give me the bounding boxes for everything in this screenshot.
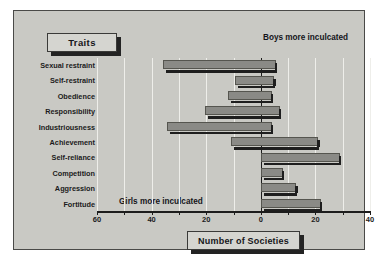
bar[interactable]: [261, 199, 321, 208]
x-axis-tick-label: 40: [358, 215, 380, 224]
category-label: Fortitude: [32, 197, 95, 212]
category-label: Aggression: [32, 181, 95, 196]
bar[interactable]: [261, 183, 296, 192]
axis-title-label: Number of Societies: [198, 236, 289, 246]
gridline: [370, 58, 371, 212]
x-axis-tick-label: 0: [249, 215, 273, 224]
bar-row: [97, 89, 370, 104]
traits-box-label: Traits: [68, 37, 96, 48]
category-label: Self-reliance: [32, 150, 95, 165]
bar[interactable]: [235, 76, 275, 85]
category-label: Industriousness: [32, 120, 95, 135]
x-axis-tick-label: 20: [303, 215, 327, 224]
traits-legend-box: Traits: [47, 33, 117, 52]
category-label: Responsibility: [32, 104, 95, 119]
bar-row: [97, 150, 370, 165]
category-label: Self-restraint: [32, 73, 95, 88]
category-label: Sexual restraint: [32, 58, 95, 73]
bar-row: [97, 181, 370, 196]
x-axis-tick: [288, 211, 289, 215]
bar-row: [97, 166, 370, 181]
bar-row: [97, 120, 370, 135]
x-axis-tick: [124, 211, 125, 215]
bar[interactable]: [261, 153, 340, 162]
x-axis-tick: [234, 211, 235, 215]
bar[interactable]: [167, 122, 272, 131]
x-axis-tick-label: 20: [194, 215, 218, 224]
chart-frame: Traits Boys more inculcated Girls more i…: [13, 10, 365, 250]
bar[interactable]: [163, 60, 276, 69]
category-label: Achievement: [32, 135, 95, 150]
bar[interactable]: [231, 137, 318, 146]
bar-row: [97, 197, 370, 212]
annotation-boys-more-inculcated: Boys more inculcated: [263, 33, 348, 42]
bar-row: [97, 73, 370, 88]
category-axis-labels: Sexual restraintSelf-restraintObedienceR…: [32, 58, 95, 212]
x-axis-tick-label: 40: [140, 215, 164, 224]
x-axis-tick: [179, 211, 180, 215]
category-label: Obedience: [32, 89, 95, 104]
bar-row: [97, 58, 370, 73]
bar[interactable]: [205, 106, 280, 115]
x-axis-tick-label: 60: [85, 215, 109, 224]
bar[interactable]: [261, 168, 283, 177]
category-label: Competition: [32, 166, 95, 181]
bar-row: [97, 135, 370, 150]
x-axis-tick: [343, 211, 344, 215]
bar[interactable]: [228, 91, 272, 100]
plot-area: [97, 58, 370, 212]
axis-title-box: Number of Societies: [187, 231, 300, 250]
bar-row: [97, 104, 370, 119]
